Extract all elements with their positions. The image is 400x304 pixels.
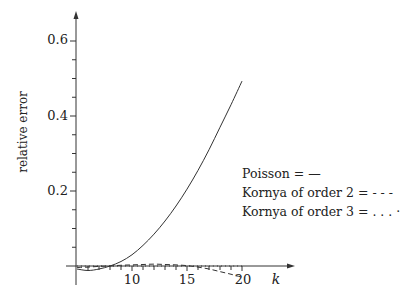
series-layer bbox=[77, 81, 242, 277]
legend-item-kornya-3: Kornya of order 3 = . . . · bbox=[242, 204, 400, 219]
x-axis-label: k bbox=[272, 271, 280, 287]
y-minor-ticks bbox=[70, 41, 76, 247]
y-tick-label: 0.4 bbox=[47, 108, 68, 123]
relative-error-chart: 0.2 0.4 0.6 relative error 10 15 20 k Po… bbox=[0, 0, 400, 304]
x-tick-label: 20 bbox=[235, 272, 252, 287]
x-axis-arrow-icon bbox=[287, 264, 295, 269]
legend: Poisson = — Kornya of order 2 = - - - Ko… bbox=[242, 166, 400, 219]
legend-item-kornya-2: Kornya of order 2 = - - - bbox=[242, 185, 393, 200]
y-tick-label: 0.2 bbox=[47, 183, 68, 198]
x-tick-label: 15 bbox=[179, 272, 196, 287]
y-axis: 0.2 0.4 0.6 bbox=[47, 11, 78, 285]
y-axis-label: relative error bbox=[16, 91, 30, 173]
y-axis-arrow-icon bbox=[74, 11, 79, 19]
x-tick-label: 10 bbox=[124, 272, 141, 287]
series-poisson bbox=[77, 81, 242, 270]
x-minor-ticks bbox=[88, 266, 242, 271]
y-tick-label: 0.6 bbox=[47, 32, 68, 47]
legend-item-poisson: Poisson = — bbox=[242, 166, 321, 181]
x-axis: 10 15 20 bbox=[66, 264, 295, 288]
